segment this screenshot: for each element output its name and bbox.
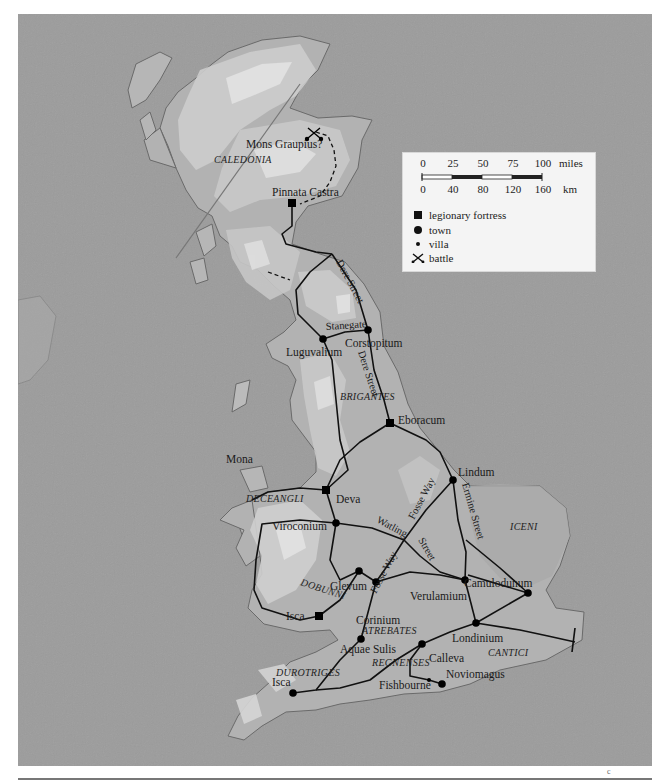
scale-miles-25: 25	[448, 157, 459, 169]
label-fishbourne: Fishbourne	[379, 679, 431, 691]
label-noviomagus: Noviomagus	[446, 668, 505, 681]
fortress-deva-icon	[322, 486, 330, 494]
fortress-isca-icon	[315, 612, 323, 620]
label-mons-graupius: Mons Graupius?	[246, 138, 322, 151]
region-regnenses: REGNENSES	[371, 657, 430, 668]
legend-item-battle: battle	[411, 252, 453, 264]
region-iceni: ICENI	[509, 521, 538, 532]
town-londinium-icon	[472, 619, 480, 627]
label-pinnata-castra: Pinnata Castra	[272, 186, 339, 198]
map-canvas: CALEDONIA BRIGANTES DECEANGLI DOBUNNI IC…	[18, 14, 652, 766]
label-calleva: Calleva	[429, 652, 464, 664]
fortress-eboracum-icon	[386, 419, 394, 427]
scale-miles-50: 50	[478, 157, 489, 169]
label-luguvalium: Luguvalium	[286, 346, 342, 359]
label-deva: Deva	[336, 493, 360, 505]
town-aquae-sulis-icon	[357, 635, 365, 643]
map-legend: 0 25 50 75 100 miles 0 40 80 120 160 km …	[402, 152, 596, 272]
label-corstopitum: Corstopitum	[345, 337, 403, 350]
square-icon	[411, 211, 425, 219]
label-lindum: Lindum	[458, 466, 494, 478]
label-camulodunum: Camulodunum	[464, 577, 532, 589]
legend-item-villa: villa	[411, 238, 449, 250]
town-calleva-icon	[418, 640, 426, 648]
scale-miles-100: 100	[535, 157, 552, 169]
label-eboracum: Eboracum	[398, 414, 445, 426]
circle-icon	[411, 226, 425, 234]
town-viroconium-icon	[332, 519, 340, 527]
crossed-swords-icon	[411, 253, 425, 263]
scale-km-80: 80	[478, 183, 489, 195]
page-mark: c	[607, 767, 611, 776]
label-corinium: Corinium	[356, 614, 400, 626]
label-isca-dumnoniorum: Isca	[272, 676, 291, 688]
scale-km-40: 40	[448, 183, 459, 195]
scale-miles-0: 0	[420, 157, 426, 169]
town-lindum-icon	[449, 476, 457, 484]
dot-icon	[411, 242, 425, 246]
map-frame: CALEDONIA BRIGANTES DECEANGLI DOBUNNI IC…	[18, 14, 652, 766]
scale-bar-graphic	[421, 173, 547, 181]
region-cantici: CANTICI	[488, 647, 529, 658]
region-deceangli: DECEANGLI	[245, 493, 304, 504]
label-aquae-sulis: Aquae Sulis	[340, 643, 396, 656]
town-isca-dumnoniorum-icon	[289, 689, 297, 697]
legend-item-fortress: legionary fortress	[411, 209, 506, 221]
scale-km-unit: km	[563, 183, 577, 195]
label-mona: Mona	[226, 453, 253, 465]
scale-km-0: 0	[420, 183, 426, 195]
label-verulamium: Verulamium	[410, 590, 467, 602]
label-isca-silurum: Isca	[286, 610, 305, 622]
scale-miles-unit: miles	[559, 157, 583, 169]
label-londinium: Londinium	[452, 632, 503, 644]
town-glevum-icon	[355, 567, 363, 575]
town-noviomagus-icon	[438, 680, 446, 688]
fortress-pinnata-castra-icon	[288, 199, 296, 207]
scale-km-120: 120	[505, 183, 522, 195]
bottom-rule	[18, 778, 652, 780]
region-brigantes: BRIGANTES	[340, 391, 395, 402]
town-luguvalium-icon	[319, 335, 327, 343]
town-camulodunum-icon	[524, 589, 532, 597]
scale-km-160: 160	[535, 183, 552, 195]
label-viroconium: Viroconium	[272, 520, 327, 532]
scale-miles-75: 75	[508, 157, 519, 169]
legend-item-town: town	[411, 224, 451, 236]
region-caledonia: CALEDONIA	[214, 154, 272, 165]
region-atrebates: ATREBATES	[361, 625, 417, 636]
label-glevum: Glevum	[330, 580, 367, 592]
